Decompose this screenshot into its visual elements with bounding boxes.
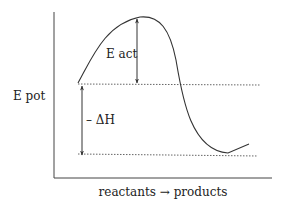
activation-energy-label: E act <box>106 47 137 61</box>
product-level-line <box>78 154 258 156</box>
energy-diagram: E pot E act – ΔH reactants → products <box>0 0 282 208</box>
enthalpy-label: – ΔH <box>86 113 115 127</box>
y-axis-label: E pot <box>13 89 45 103</box>
x-axis-label: reactants → products <box>99 185 228 199</box>
reactant-level-line <box>78 84 260 85</box>
